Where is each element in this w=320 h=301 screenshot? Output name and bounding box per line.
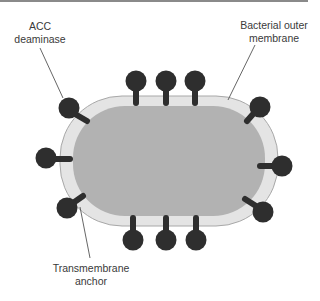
membrane-leader-line bbox=[228, 45, 255, 100]
acc-deaminase-protein-left-1 bbox=[59, 98, 88, 122]
anchor-label-line2: anchor bbox=[48, 275, 134, 288]
acc-deaminase-label: ACC deaminase bbox=[8, 20, 72, 46]
acc-label-line1: ACC bbox=[8, 20, 72, 33]
cytoplasm bbox=[73, 106, 265, 216]
membrane-label-line2: membrane bbox=[230, 32, 318, 45]
acc-deaminase-protein-right-1 bbox=[247, 97, 271, 122]
acc-leader-line bbox=[40, 48, 63, 98]
outer-membrane-label: Bacterial outer membrane bbox=[230, 19, 318, 45]
membrane-label-line1: Bacterial outer bbox=[230, 19, 318, 32]
transmembrane-anchor-label: Transmembrane anchor bbox=[48, 262, 134, 288]
acc-label-line2: deaminase bbox=[8, 33, 72, 46]
anchor-label-line1: Transmembrane bbox=[48, 262, 134, 275]
